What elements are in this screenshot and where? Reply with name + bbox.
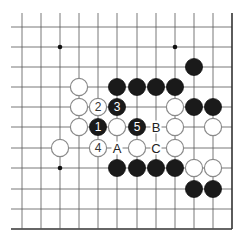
point-label-a: A — [113, 141, 122, 156]
black-stone — [166, 78, 183, 95]
point-label-b: B — [152, 120, 161, 135]
black-stone — [128, 78, 145, 95]
black-stone — [185, 58, 202, 75]
move-number: 3 — [114, 100, 121, 114]
white-stone — [166, 118, 183, 135]
stones: 23154 — [51, 58, 221, 197]
white-stone — [204, 159, 221, 176]
black-stone — [147, 78, 164, 95]
white-stone — [70, 78, 87, 95]
white-stone — [128, 139, 145, 156]
white-stone — [70, 98, 87, 115]
move-number: 1 — [95, 120, 102, 134]
white-stone — [166, 98, 183, 115]
move-number: 5 — [134, 120, 141, 134]
white-stone — [185, 159, 202, 176]
white-stone — [108, 118, 125, 135]
white-stone — [51, 139, 68, 156]
point-label-c: C — [151, 141, 160, 156]
black-stone — [185, 180, 202, 197]
move-number: 2 — [95, 100, 102, 114]
star-point — [173, 45, 178, 50]
move-number: 4 — [95, 141, 102, 155]
star-point — [58, 45, 63, 50]
black-stone — [204, 180, 221, 197]
black-stone — [185, 98, 202, 115]
black-stone — [108, 78, 125, 95]
black-stone — [147, 159, 164, 176]
star-point — [58, 166, 63, 171]
white-stone — [204, 118, 221, 135]
black-stone — [166, 159, 183, 176]
black-stone — [108, 159, 125, 176]
black-stone — [204, 98, 221, 115]
go-board: 23154 BAC — [0, 0, 241, 237]
white-stone — [166, 139, 183, 156]
black-stone — [128, 159, 145, 176]
white-stone — [70, 118, 87, 135]
